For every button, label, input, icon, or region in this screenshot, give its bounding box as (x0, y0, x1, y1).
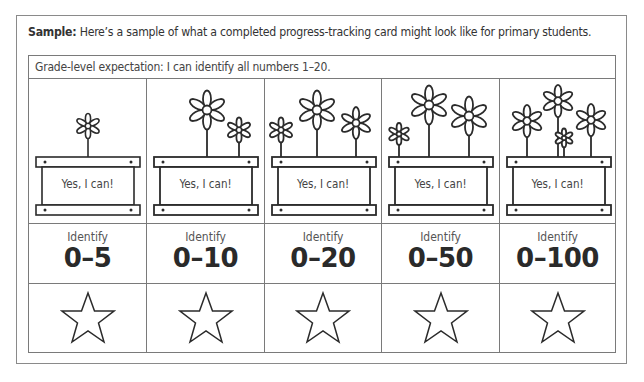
grade-level-expectation: Grade-level expectation: I can identify … (29, 56, 615, 79)
progress-column-2: Yes, I can! Identify 0–10 (146, 79, 264, 352)
intro-text: Sample: Here’s a sample of what a comple… (28, 25, 591, 39)
star-outline-icon (530, 291, 586, 345)
level-label: Identify (29, 230, 146, 244)
level-label: Identify (382, 230, 499, 244)
level-cell: Identify 0–10 (147, 224, 264, 284)
flower-planter-illustration: Yes, I can! (29, 79, 146, 224)
level-range: 0–100 (500, 244, 615, 272)
planter-text: Yes, I can! (29, 177, 146, 191)
star-outline-icon (178, 291, 234, 345)
level-range: 0–10 (147, 244, 264, 272)
star-cell[interactable] (265, 284, 381, 352)
level-cell: Identify 0–20 (265, 224, 381, 284)
planter-text: Yes, I can! (382, 177, 499, 191)
planter-text: Yes, I can! (500, 177, 615, 191)
star-outline-icon (295, 291, 351, 345)
progress-column-1: Yes, I can! Identify 0–5 (29, 79, 146, 352)
intro-label: Sample: (28, 25, 76, 39)
planter-text: Yes, I can! (265, 177, 381, 191)
flower-planter-icon (382, 79, 500, 224)
flower-planter-illustration: Yes, I can! (265, 79, 381, 224)
flower-planter-illustration: Yes, I can! (382, 79, 499, 224)
star-cell[interactable] (29, 284, 146, 352)
level-label: Identify (147, 230, 264, 244)
level-label: Identify (500, 230, 615, 244)
progress-tracking-card: Grade-level expectation: I can identify … (28, 55, 616, 353)
flower-planter-icon (147, 79, 265, 224)
star-cell[interactable] (147, 284, 264, 352)
level-range: 0–20 (265, 244, 381, 272)
level-range: 0–5 (29, 244, 146, 272)
flower-planter-illustration: Yes, I can! (500, 79, 615, 224)
progress-column-5: Yes, I can! Identify 0–100 (499, 79, 615, 352)
level-label: Identify (265, 230, 381, 244)
level-cell: Identify 0–50 (382, 224, 499, 284)
level-range: 0–50 (382, 244, 499, 272)
level-cell: Identify 0–100 (500, 224, 615, 284)
flower-planter-icon (29, 79, 146, 224)
flower-planter-icon (500, 79, 616, 224)
level-cell: Identify 0–5 (29, 224, 146, 284)
star-outline-icon (60, 291, 116, 345)
progress-column-4: Yes, I can! Identify 0–50 (381, 79, 499, 352)
flower-planter-illustration: Yes, I can! (147, 79, 264, 224)
star-outline-icon (413, 291, 469, 345)
star-cell[interactable] (500, 284, 615, 352)
planter-text: Yes, I can! (147, 177, 264, 191)
intro-body: Here’s a sample of what a completed prog… (76, 25, 591, 39)
flower-planter-icon (265, 79, 382, 224)
progress-column-3: Yes, I can! Identify 0–20 (264, 79, 381, 352)
star-cell[interactable] (382, 284, 499, 352)
